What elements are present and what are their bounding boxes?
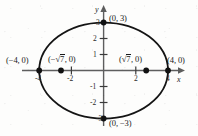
point-focus-right bbox=[143, 68, 149, 74]
focus-right-close-paren: , 0) bbox=[131, 54, 142, 64]
focus-left-radicand: 7 bbox=[60, 54, 65, 64]
y-tick-label-pos1: 1 bbox=[93, 51, 97, 59]
x-tick-label-pos2: 2 bbox=[134, 75, 138, 83]
y-tick-label-neg1: -1 bbox=[90, 83, 96, 91]
point-focus-left bbox=[58, 68, 64, 74]
y-axis-arrowhead bbox=[100, 5, 106, 12]
radical-sign-icon: √ bbox=[122, 55, 127, 64]
x-tick-label-pos4: 4 bbox=[166, 75, 170, 83]
y-tick-label-pos2: 2 bbox=[93, 35, 97, 43]
ellipse-graph-figure: x y -4 -2 2 4 3 2 1 -1 -2 -3 (0, 3) (0, … bbox=[0, 0, 198, 136]
point-label-covertex-bottom: (0, −3) bbox=[109, 119, 132, 128]
focus-left-open-paren: (− bbox=[48, 54, 55, 64]
x-tick-label-neg2: -2 bbox=[67, 75, 73, 83]
point-label-focus-left: (−√7, 0) bbox=[48, 54, 76, 64]
point-label-vertex-right: (4, 0) bbox=[167, 56, 185, 65]
focus-right-radicand: 7 bbox=[126, 54, 131, 64]
point-vertex-right bbox=[165, 68, 171, 74]
x-axis-arrowhead bbox=[178, 67, 185, 73]
point-label-covertex-top: (0, 3) bbox=[109, 14, 127, 23]
y-tick-label-neg2: -2 bbox=[90, 99, 96, 107]
x-axis-label: x bbox=[177, 76, 181, 84]
radical-sign-icon: √ bbox=[55, 55, 60, 64]
focus-left-close-paren: , 0) bbox=[65, 54, 76, 64]
sqrt-group-right: √7 bbox=[122, 54, 131, 64]
point-label-vertex-left: (−4, 0) bbox=[6, 56, 29, 65]
point-covertex-top bbox=[101, 20, 107, 26]
sqrt-group-left: √7 bbox=[55, 54, 64, 64]
x-tick-label-neg4: -4 bbox=[35, 75, 41, 83]
y-axis-label: y bbox=[95, 6, 99, 14]
point-label-focus-right: (√7, 0) bbox=[119, 54, 142, 64]
y-tick-label-pos3: 3 bbox=[96, 19, 100, 27]
y-tick-label-neg3: -3 bbox=[96, 115, 102, 123]
point-vertex-left bbox=[36, 68, 42, 74]
